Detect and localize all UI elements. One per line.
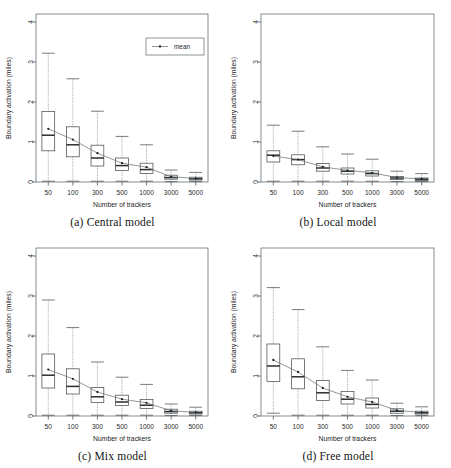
panel-d-free-model: 01234Boundary activation (miles)50100300…: [225, 234, 451, 468]
mean-marker: [346, 396, 348, 398]
mean-marker: [72, 138, 74, 140]
x-tick-label: 300: [92, 189, 103, 196]
x-tick-label: 1000: [139, 189, 154, 196]
mean-marker: [195, 411, 197, 413]
y-tick-label: 2: [27, 334, 34, 338]
x-tick-label: 50: [45, 189, 53, 196]
panel-a-caption: (a) Central model: [0, 216, 225, 228]
y-tick-label: 3: [252, 60, 259, 64]
boxplot-group: [341, 154, 354, 181]
boxplot-group: [292, 131, 305, 181]
legend-label: mean: [174, 43, 190, 50]
x-tick-label: 500: [116, 423, 127, 430]
mean-marker: [322, 387, 324, 389]
x-tick-label: 3000: [390, 423, 405, 430]
x-tick-label: 100: [293, 423, 304, 430]
boxplot-group: [341, 370, 354, 415]
panel-c-mix-model: 01234Boundary activation (miles)50100300…: [0, 234, 225, 468]
x-tick-label: 1000: [139, 423, 154, 430]
boxplot-group: [366, 159, 379, 181]
boxplot-group: [415, 407, 428, 416]
x-tick-label: 500: [342, 423, 353, 430]
mean-marker: [96, 391, 98, 393]
panel-b-local-model: 01234Boundary activation (miles)50100300…: [225, 0, 451, 234]
boxplot-group: [140, 145, 153, 181]
mean-marker: [420, 411, 422, 413]
y-tick-label: 4: [252, 254, 259, 258]
boxplot-group: [66, 79, 79, 181]
mean-marker: [420, 178, 422, 180]
x-axis-title: Number of trackers: [319, 435, 377, 442]
x-tick-label: 100: [293, 189, 304, 196]
y-tick-label: 1: [252, 140, 259, 144]
x-tick-label: 5000: [414, 189, 429, 196]
x-tick-label: 500: [342, 189, 353, 196]
x-axis-title: Number of trackers: [319, 201, 377, 208]
mean-marker: [396, 176, 398, 178]
y-tick-label: 0: [27, 180, 34, 184]
boxplot-group: [267, 125, 280, 181]
legend-marker-sample: [159, 45, 161, 47]
panel-d-caption: (d) Free model: [225, 450, 451, 462]
box-iqr: [140, 163, 153, 173]
x-tick-label: 5000: [188, 189, 203, 196]
boxplot-group: [140, 384, 153, 415]
mean-marker: [396, 409, 398, 411]
box-iqr: [42, 112, 55, 151]
x-tick-label: 300: [317, 189, 328, 196]
x-axis-title: Number of trackers: [93, 201, 151, 208]
mean-marker: [121, 162, 123, 164]
y-axis-title: Boundary activation (miles): [230, 291, 238, 373]
y-tick-label: 1: [252, 374, 259, 378]
y-tick-label: 3: [27, 60, 34, 64]
mean-marker: [371, 401, 373, 403]
box-iqr: [91, 145, 104, 166]
x-tick-label: 300: [317, 423, 328, 430]
x-tick-label: 100: [67, 423, 78, 430]
x-tick-label: 3000: [390, 189, 405, 196]
boxplot-group: [267, 288, 280, 414]
y-tick-label: 1: [27, 374, 34, 378]
x-tick-label: 5000: [188, 423, 203, 430]
boxplot-group: [316, 147, 329, 181]
y-tick-label: 4: [27, 20, 34, 24]
boxplot-group: [42, 300, 55, 415]
y-tick-label: 3: [27, 294, 34, 298]
mean-marker: [272, 359, 274, 361]
y-tick-label: 4: [27, 254, 34, 258]
box-iqr: [292, 359, 305, 389]
panel-a-plot: 01234Boundary activation (miles)50100300…: [0, 0, 225, 234]
y-tick-label: 0: [27, 414, 34, 418]
y-tick-label: 0: [252, 414, 259, 418]
y-axis-title: Boundary activation (miles): [5, 291, 13, 373]
boxplot-group: [366, 380, 379, 415]
x-tick-label: 100: [67, 189, 78, 196]
x-tick-label: 5000: [414, 423, 429, 430]
panel-c-caption: (c) Mix model: [0, 450, 225, 462]
box-iqr: [267, 344, 280, 382]
x-tick-label: 3000: [164, 423, 179, 430]
x-tick-label: 50: [270, 189, 278, 196]
mean-marker: [322, 166, 324, 168]
boxplot-group: [91, 111, 104, 181]
y-tick-label: 0: [252, 180, 259, 184]
panel-d-plot: 01234Boundary activation (miles)50100300…: [225, 234, 451, 468]
panel-b-plot: 01234Boundary activation (miles)50100300…: [225, 0, 451, 234]
x-axis-title: Number of trackers: [93, 435, 151, 442]
figure-grid: 01234Boundary activation (miles)50100300…: [0, 0, 451, 468]
mean-marker: [195, 177, 197, 179]
x-tick-label: 3000: [164, 189, 179, 196]
mean-marker: [145, 402, 147, 404]
mean-marker: [170, 410, 172, 412]
mean-marker: [47, 368, 49, 370]
y-axis-title: Boundary activation (miles): [5, 57, 13, 139]
boxplot-group: [42, 53, 55, 181]
mean-marker: [145, 166, 147, 168]
x-tick-label: 300: [92, 423, 103, 430]
mean-marker: [297, 158, 299, 160]
boxplot-group: [415, 174, 428, 182]
panel-a-central-model: 01234Boundary activation (miles)50100300…: [0, 0, 225, 234]
mean-marker: [272, 155, 274, 157]
boxplot-group: [292, 310, 305, 416]
y-tick-label: 2: [252, 100, 259, 104]
